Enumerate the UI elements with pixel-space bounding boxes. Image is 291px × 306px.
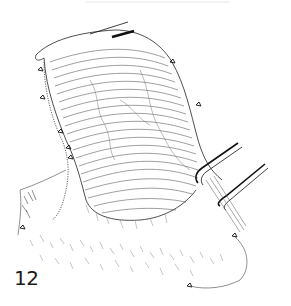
surgical-illustration	[0, 0, 291, 306]
tissue-fringe	[30, 205, 223, 276]
sutures-right	[170, 59, 247, 288]
vessels	[90, 70, 190, 170]
forceps-icon	[196, 143, 268, 232]
left-tissue-flap	[18, 170, 66, 235]
organ-body	[35, 22, 222, 220]
figure-number: 12	[14, 266, 38, 290]
organ-hatching	[50, 49, 198, 213]
